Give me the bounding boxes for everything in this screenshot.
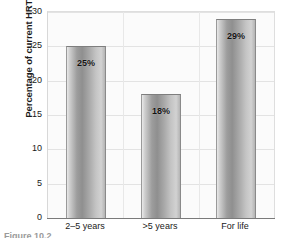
bar-value-label: 29% xyxy=(216,31,256,41)
gridline-vertical xyxy=(199,12,200,218)
y-axis-tick-label: 20 xyxy=(20,76,42,85)
y-axis-tick-label: 5 xyxy=(20,179,42,188)
bar xyxy=(216,19,256,218)
gridline-horizontal xyxy=(48,12,274,13)
bar-value-label: 18% xyxy=(141,106,181,116)
x-axis-tick-label: 2–5 years xyxy=(45,221,125,231)
bar xyxy=(66,46,106,218)
x-axis-line xyxy=(47,218,275,219)
plot-area: 25%18%29% xyxy=(47,11,275,219)
y-axis-tick-label: 0 xyxy=(20,213,42,222)
y-axis-tick-label: 25 xyxy=(20,41,42,50)
y-axis-tick-labels: 051015202530 xyxy=(20,0,42,238)
x-axis-tick-label: For life xyxy=(195,221,275,231)
figure-caption: Figure 10.2 xyxy=(4,231,164,238)
y-axis-tick-label: 10 xyxy=(20,144,42,153)
x-axis-tick-label: >5 years xyxy=(120,221,200,231)
bar-value-label: 25% xyxy=(66,58,106,68)
y-axis-tick-label: 30 xyxy=(20,7,42,16)
y-axis-tick-label: 15 xyxy=(20,110,42,119)
gridline-vertical xyxy=(123,12,124,218)
bar-chart-figure: Percentage of current HRT users 05101520… xyxy=(0,0,282,238)
